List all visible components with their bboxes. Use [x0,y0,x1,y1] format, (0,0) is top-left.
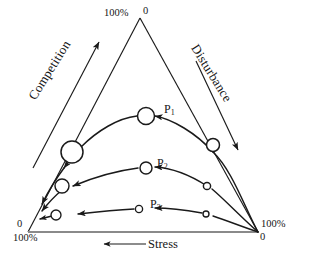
marker-p2-right [203,182,210,189]
point-label-p1: P1 [164,103,175,115]
point-label-p1-letter: P [164,102,171,116]
stress-axis-label: Stress [148,238,178,251]
marker-p3-peak [135,205,142,212]
marker-p2-peak [140,162,152,174]
apex-left-value: 100% [104,8,129,19]
trajectory-p3-markers [51,205,209,220]
point-label-p3: P3 [150,198,161,210]
marker-p1-left [61,141,83,163]
point-label-p2-subscript: 2 [164,162,168,171]
point-label-p1-subscript: 1 [171,108,175,117]
marker-p1-peak [138,108,155,125]
point-label-p2: P2 [157,157,168,169]
bottom-left-bottom-value: 100% [13,233,38,244]
marker-p2-left [55,179,69,193]
trajectory-p3 [40,208,258,232]
point-label-p3-letter: P [150,197,157,211]
point-label-p2-letter: P [157,156,164,170]
bottom-left-top-value: 0 [17,219,22,230]
marker-p3-right [203,211,209,217]
trajectory-p2-markers [55,162,211,193]
ternary-diagram-figure: 100% 0 0 100% 100% 0 Competition Disturb… [0,0,309,262]
marker-p3-left [51,210,61,220]
bottom-right-bottom-value: 0 [260,232,265,243]
point-label-p3-subscript: 3 [157,203,161,212]
marker-p1-right [207,139,220,152]
bottom-right-top-value: 100% [261,219,286,230]
apex-right-value: 0 [143,6,148,17]
